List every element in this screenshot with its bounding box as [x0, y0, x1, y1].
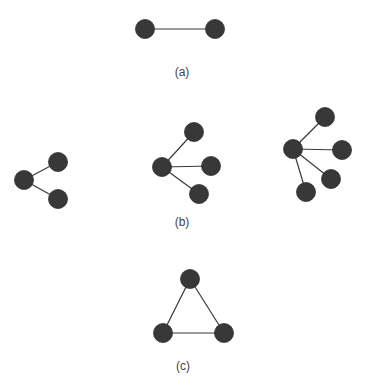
node-star-4-l4 [297, 183, 316, 202]
node-triangle-t [181, 270, 200, 289]
node-star-3-hub [153, 158, 172, 177]
node-star-2-l2 [49, 190, 68, 209]
node-pair-n2 [206, 20, 225, 39]
figure-label-c: (c) [176, 359, 190, 373]
node-star-3-l2 [202, 157, 221, 176]
node-star-2-l1 [49, 153, 68, 172]
figure-label-a: (a) [175, 65, 190, 79]
figure-label-b: (b) [175, 215, 190, 229]
node-star-4-l3 [322, 170, 341, 189]
node-star-4-l2 [333, 141, 352, 160]
node-triangle-br [215, 324, 234, 343]
node-star-4-l1 [316, 108, 335, 127]
node-triangle-bl [154, 324, 173, 343]
node-star-4-hub [284, 140, 303, 159]
node-star-3-l3 [190, 185, 209, 204]
nodes-triangle [154, 270, 234, 343]
node-star-2-hub [15, 171, 34, 190]
nodes-star-2 [15, 153, 68, 209]
nodes-star-3 [153, 123, 221, 204]
graph-diagram: (a) (b) (c) [0, 0, 366, 390]
nodes-star-4 [284, 108, 352, 202]
node-star-3-l1 [185, 123, 204, 142]
node-pair-n1 [136, 20, 155, 39]
